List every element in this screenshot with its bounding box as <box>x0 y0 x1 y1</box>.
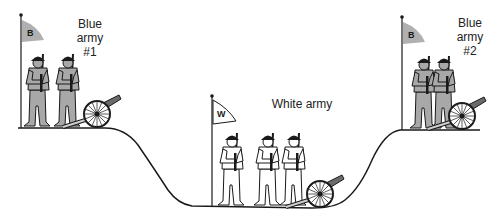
label-line: Blue <box>448 16 492 30</box>
label-line: White army <box>262 97 342 111</box>
label-line: #2 <box>448 44 492 58</box>
svg-text:W: W <box>217 109 226 119</box>
blue-army-1-label: Blue army #1 <box>68 17 112 59</box>
svg-text:B: B <box>27 28 34 38</box>
white-army: W <box>210 94 344 207</box>
svg-text:B: B <box>408 30 415 40</box>
label-line: army <box>68 31 112 45</box>
label-line: #1 <box>68 45 112 59</box>
label-line: army <box>448 30 492 44</box>
white-army-label: White army <box>262 97 342 111</box>
label-line: Blue <box>68 17 112 31</box>
terrain-line <box>18 128 480 208</box>
blue-army-2-label: Blue army #2 <box>448 16 492 58</box>
